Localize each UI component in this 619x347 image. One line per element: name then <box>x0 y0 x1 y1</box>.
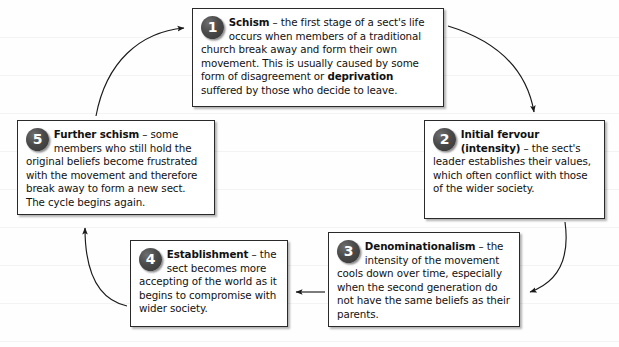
stage-number-badge-5: 5 <box>26 128 49 151</box>
stage-5-term: Further schism <box>54 128 139 140</box>
stage-box-5-further-schism[interactable]: 5Further schism – some members who still… <box>17 120 215 215</box>
diagram-canvas: 1Schism – the first stage of a sect's li… <box>0 0 619 347</box>
stage-box-2-initial-fervour[interactable]: 2Initial fervour (intensity) – the sect'… <box>424 120 605 219</box>
stage-number-badge-3: 3 <box>337 240 360 263</box>
stage-1-body2: suffered by those who decide to leave. <box>201 84 397 96</box>
stage-1-text: 1Schism – the first stage of a sect's li… <box>201 16 435 98</box>
stage-5-text: 5Further schism – some members who still… <box>26 128 206 210</box>
stage-box-4-establishment[interactable]: 4Establishment – the sect becomes more a… <box>130 240 288 327</box>
connector-1-to-2 <box>448 26 534 112</box>
connector-5-to-1 <box>96 28 184 116</box>
stage-4-term: Establishment <box>167 248 249 260</box>
stage-1-emphasis: deprivation <box>327 70 393 82</box>
stage-number-badge-2: 2 <box>433 128 456 151</box>
stage-2-text: 2Initial fervour (intensity) – the sect'… <box>433 128 596 196</box>
stage-4-text: 4Establishment – the sect becomes more a… <box>139 248 279 316</box>
connector-2-to-3 <box>530 222 566 292</box>
stage-number-badge-1: 1 <box>201 16 224 39</box>
stage-box-1-schism[interactable]: 1Schism – the first stage of a sect's li… <box>192 8 444 107</box>
stage-box-3-denominationalism[interactable]: 3Denominationalism – the intensity of th… <box>328 232 520 327</box>
connector-4-to-5 <box>85 228 127 306</box>
stage-3-text: 3Denominationalism – the intensity of th… <box>337 240 511 322</box>
stage-number-badge-4: 4 <box>139 248 162 271</box>
stage-3-term: Denominationalism <box>365 240 476 252</box>
stage-1-term: Schism <box>229 16 270 28</box>
